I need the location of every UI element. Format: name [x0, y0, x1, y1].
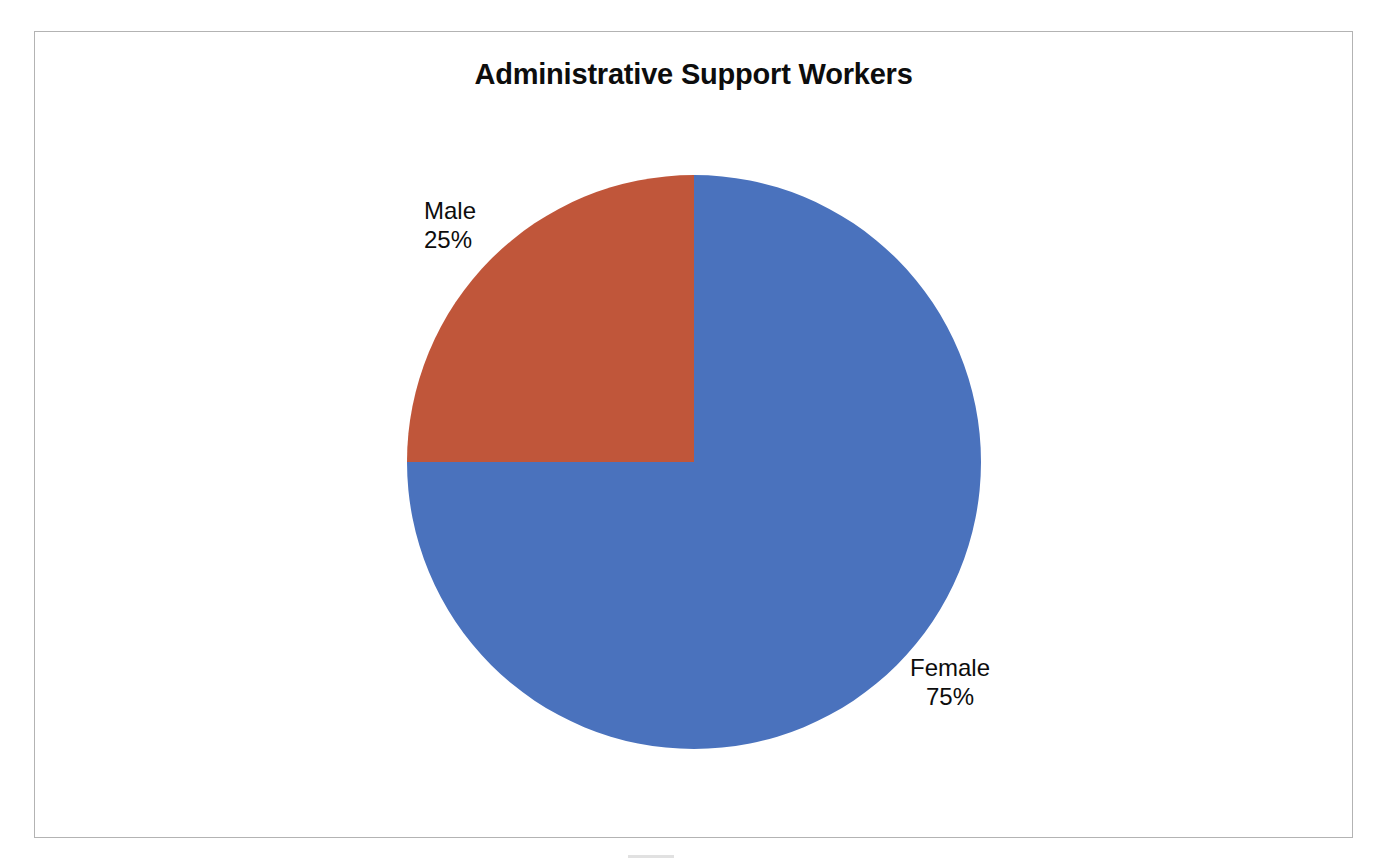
data-label-male-value: 25%: [424, 225, 476, 254]
data-label-female: Female 75%: [910, 653, 990, 712]
page-canvas: Administrative Support Workers Male 25% …: [0, 0, 1384, 865]
plot-area: Male 25% Female 75%: [35, 32, 1352, 837]
data-label-male: Male 25%: [424, 196, 476, 255]
chart-frame: Administrative Support Workers Male 25% …: [34, 31, 1353, 838]
data-label-female-name: Female: [910, 653, 990, 682]
data-label-female-value: 75%: [910, 682, 990, 711]
pie-chart-graphic: [35, 32, 1352, 837]
scan-artifact: [628, 855, 674, 858]
data-label-male-name: Male: [424, 196, 476, 225]
